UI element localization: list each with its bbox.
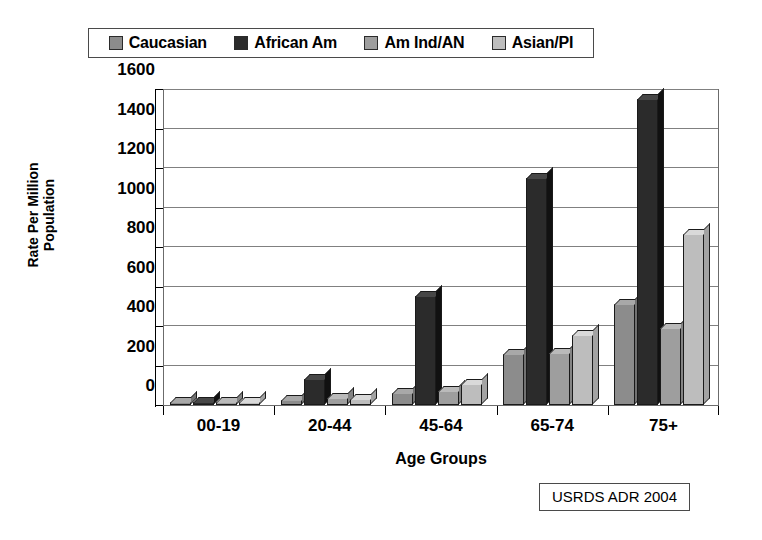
bar <box>683 234 704 405</box>
bar <box>503 354 524 405</box>
y-tick-mark <box>155 366 163 367</box>
y-tick-label: 200 <box>99 337 155 357</box>
bar <box>637 99 658 405</box>
x-axis-label: 20-44 <box>275 416 385 436</box>
y-tick-mark <box>155 287 163 288</box>
bar-side-face <box>436 285 442 404</box>
x-axis-ticks <box>163 406 719 416</box>
legend-label-am-ind-an: Am Ind/AN <box>384 34 464 52</box>
legend-label-asian-pi: Asian/PI <box>512 34 574 52</box>
bar-side-face <box>260 391 266 404</box>
legend-swatch-caucasian <box>109 36 123 50</box>
bar <box>239 402 260 405</box>
x-axis-label: 00-19 <box>164 416 274 436</box>
x-axis-label: 65-74 <box>497 416 607 436</box>
bar-group <box>385 89 496 405</box>
bar-side-face <box>482 373 488 404</box>
x-tick-mark <box>274 406 275 415</box>
bar-group <box>497 89 608 405</box>
x-axis-label: 45-64 <box>386 416 496 436</box>
y-axis-title-line1: Rate Per Million <box>26 162 42 267</box>
bar <box>392 393 413 405</box>
y-tick-label: 1400 <box>99 100 155 120</box>
legend-swatch-asian-pi <box>492 36 506 50</box>
bar <box>614 304 635 405</box>
bar <box>415 296 436 405</box>
x-tick-mark <box>163 406 164 415</box>
y-tick-label: 400 <box>99 297 155 317</box>
x-tick-mark <box>497 406 498 415</box>
y-tick-mark <box>155 129 163 130</box>
legend-item-am-ind-an: Am Ind/AN <box>364 34 464 52</box>
legend-item-african-am: African Am <box>234 34 337 52</box>
bar <box>216 402 237 405</box>
bar-group <box>608 89 719 405</box>
x-tick-mark <box>718 406 719 415</box>
y-axis-title-line2: Population <box>42 179 58 251</box>
chart-legend: Caucasian African Am Am Ind/AN Asian/PI <box>88 28 594 58</box>
y-axis-title: Rate Per Million Population <box>12 110 72 320</box>
bar-side-face <box>593 324 599 404</box>
source-note-box: USRDS ADR 2004 <box>539 483 690 511</box>
legend-swatch-african-am <box>234 36 248 50</box>
legend-item-asian-pi: Asian/PI <box>492 34 574 52</box>
y-tick-label: 1000 <box>99 179 155 199</box>
x-tick-mark <box>608 406 609 415</box>
legend-swatch-am-ind-an <box>364 36 378 50</box>
legend-item-caucasian: Caucasian <box>109 34 207 52</box>
y-tick-mark <box>155 89 163 90</box>
bar-side-face <box>704 223 710 404</box>
bars-layer <box>163 89 719 405</box>
y-tick-mark <box>155 168 163 169</box>
y-tick-label: 0 <box>99 376 155 396</box>
y-tick-label: 800 <box>99 218 155 238</box>
bar-chart: Caucasian African Am Am Ind/AN Asian/PI … <box>0 0 762 540</box>
x-axis-label: 75+ <box>608 416 718 436</box>
y-tick-mark <box>155 208 163 209</box>
bar <box>549 353 570 405</box>
x-axis-title: Age Groups <box>163 450 719 468</box>
x-axis-labels: 00-1920-4445-6465-7475+ <box>163 416 719 442</box>
legend-label-caucasian: Caucasian <box>129 34 207 52</box>
y-tick-label: 1200 <box>99 139 155 159</box>
bar <box>438 391 459 405</box>
y-tick-mark <box>155 405 163 406</box>
y-tick-mark <box>155 326 163 327</box>
y-tick-label: 600 <box>99 258 155 278</box>
x-tick-mark <box>385 406 386 415</box>
y-axis-ticks: 02004006008001000120014001600 <box>95 89 155 406</box>
bar <box>461 384 482 405</box>
y-axis-line <box>155 89 156 407</box>
bar <box>660 328 681 405</box>
bar <box>526 178 547 405</box>
bar-group <box>274 89 385 405</box>
bar <box>327 398 348 405</box>
bar <box>350 399 371 405</box>
y-tick-mark <box>155 247 163 248</box>
bar <box>193 402 214 405</box>
legend-label-african-am: African Am <box>254 34 337 52</box>
bar-side-face <box>371 388 377 404</box>
bar <box>281 400 302 405</box>
bar-group <box>163 89 274 405</box>
bar <box>304 379 325 405</box>
y-tick-label: 1600 <box>99 60 155 80</box>
bar <box>572 335 593 405</box>
bar <box>170 402 191 405</box>
